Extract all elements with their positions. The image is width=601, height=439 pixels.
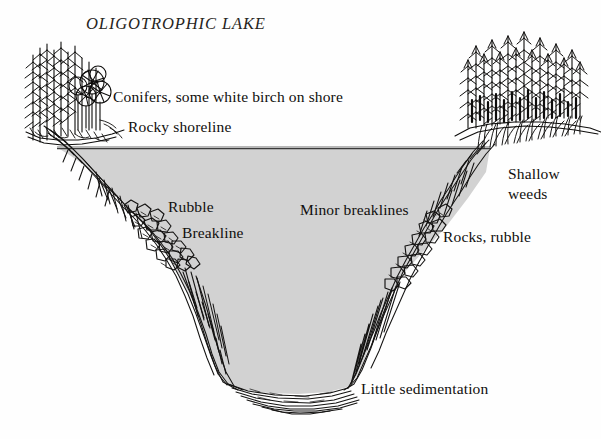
left-forest-trees (25, 42, 124, 145)
label-breakline: Breakline (182, 223, 244, 243)
label-little-sedimentation: Little sedimentation (361, 379, 488, 399)
right-forest-trees (455, 32, 601, 148)
label-conifers-shore: Conifers, some white birch on shore (113, 87, 343, 107)
label-rubble: Rubble (168, 197, 214, 217)
label-rocks-rubble: Rocks, rubble (443, 227, 531, 247)
label-shallow-weeds: Shallow weeds (508, 164, 560, 204)
lake-cross-section-diagram: OLIGOTROPHIC LAKE Conifers, some white b… (0, 0, 601, 439)
label-rocky-shoreline: Rocky shoreline (128, 117, 231, 137)
water-body (58, 148, 490, 394)
shallow-weeds-grass (478, 116, 582, 148)
label-minor-breaklines: Minor breaklines (300, 200, 409, 220)
page-title: OLIGOTROPHIC LAKE (86, 13, 266, 34)
waterline (57, 147, 491, 149)
